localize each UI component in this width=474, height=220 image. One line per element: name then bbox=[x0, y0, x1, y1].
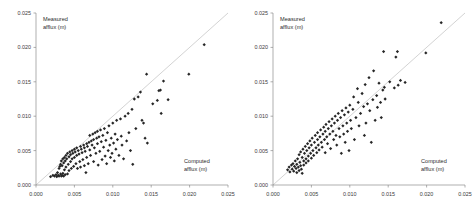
x-tick-label: 0.000 bbox=[29, 191, 43, 197]
data-point bbox=[338, 135, 341, 138]
data-point bbox=[346, 130, 349, 133]
data-point bbox=[354, 116, 357, 119]
data-point bbox=[82, 143, 85, 146]
x-tick-label: 0.010 bbox=[106, 191, 120, 197]
data-point bbox=[160, 112, 163, 115]
x-axis-title-units: afflux (m) bbox=[421, 166, 444, 172]
data-point bbox=[301, 156, 304, 159]
data-point bbox=[311, 149, 314, 152]
data-point bbox=[113, 159, 116, 162]
data-point bbox=[348, 104, 351, 107]
data-point bbox=[323, 138, 326, 141]
data-point bbox=[311, 137, 314, 140]
data-point bbox=[94, 152, 97, 155]
data-point bbox=[79, 145, 82, 148]
data-point bbox=[399, 79, 402, 82]
data-point bbox=[129, 149, 132, 152]
data-point bbox=[83, 164, 86, 167]
data-point bbox=[295, 171, 298, 174]
data-point bbox=[115, 119, 118, 122]
data-point bbox=[110, 137, 113, 140]
data-point bbox=[343, 113, 346, 116]
data-point bbox=[347, 149, 350, 152]
data-point bbox=[371, 98, 374, 101]
data-point bbox=[316, 138, 319, 141]
y-axis-title: Measured bbox=[43, 16, 68, 22]
x-tick-label: 0.000 bbox=[266, 191, 280, 197]
data-point bbox=[307, 146, 310, 149]
data-point bbox=[302, 163, 305, 166]
data-point bbox=[330, 124, 333, 127]
y-tick-label: 0.025 bbox=[255, 10, 269, 16]
data-point bbox=[104, 139, 107, 142]
data-point bbox=[363, 134, 366, 137]
y-tick-label: 0.005 bbox=[255, 148, 269, 154]
data-point bbox=[335, 143, 338, 146]
data-point bbox=[351, 108, 354, 111]
data-point bbox=[310, 157, 313, 160]
data-point bbox=[84, 150, 87, 153]
x-tick-label: 0.005 bbox=[68, 191, 82, 197]
data-point bbox=[162, 79, 165, 82]
data-point bbox=[357, 124, 360, 127]
data-point bbox=[308, 139, 311, 142]
data-point bbox=[107, 124, 110, 127]
data-point bbox=[92, 160, 95, 163]
data-point bbox=[305, 149, 308, 152]
data-point bbox=[88, 148, 91, 151]
data-point bbox=[307, 154, 310, 157]
data-point bbox=[127, 131, 130, 134]
y-tick-label: 0.000 bbox=[18, 182, 32, 188]
data-point bbox=[113, 132, 116, 135]
data-point bbox=[303, 152, 306, 155]
y-tick-label: 0.015 bbox=[255, 79, 269, 85]
data-point bbox=[83, 146, 86, 149]
data-point bbox=[108, 143, 111, 146]
x-tick-label: 0.005 bbox=[305, 191, 319, 197]
data-point bbox=[356, 87, 359, 90]
data-point bbox=[321, 146, 324, 149]
data-point bbox=[146, 141, 149, 144]
data-point bbox=[368, 109, 371, 112]
data-point bbox=[341, 124, 344, 127]
data-point bbox=[96, 142, 99, 145]
data-point bbox=[320, 141, 323, 144]
data-point bbox=[380, 116, 383, 119]
data-point bbox=[90, 143, 93, 146]
y-tick-label: 0.020 bbox=[255, 44, 269, 50]
data-point bbox=[396, 50, 399, 53]
data-point bbox=[394, 55, 397, 58]
data-point bbox=[366, 102, 369, 105]
data-point bbox=[319, 128, 322, 131]
data-point bbox=[367, 76, 370, 79]
data-point bbox=[102, 146, 105, 149]
data-point bbox=[381, 88, 384, 91]
data-point bbox=[110, 152, 113, 155]
data-point bbox=[288, 165, 291, 168]
x-axis-title-units: afflux (m) bbox=[184, 166, 207, 172]
data-point bbox=[295, 163, 298, 166]
data-point bbox=[64, 165, 67, 168]
data-point bbox=[337, 112, 340, 115]
data-point bbox=[79, 165, 82, 168]
data-point bbox=[67, 163, 70, 166]
data-point bbox=[304, 145, 307, 148]
data-point bbox=[76, 167, 79, 170]
data-point bbox=[85, 156, 88, 159]
data-point bbox=[86, 145, 89, 148]
data-point bbox=[156, 99, 159, 102]
x-tick-label: 0.010 bbox=[343, 191, 357, 197]
data-point bbox=[89, 154, 92, 157]
data-point bbox=[337, 127, 340, 130]
data-point-series bbox=[49, 43, 206, 178]
data-point bbox=[376, 106, 379, 109]
data-point bbox=[84, 171, 87, 174]
data-point bbox=[334, 134, 337, 137]
data-point bbox=[317, 143, 320, 146]
data-point bbox=[377, 82, 380, 85]
chart-panel-left: 0.0000.0050.0100.0150.0200.0250.0000.005… bbox=[0, 0, 237, 220]
data-point bbox=[299, 150, 302, 153]
data-point bbox=[318, 135, 321, 138]
data-point bbox=[384, 97, 387, 100]
data-point bbox=[397, 84, 400, 87]
